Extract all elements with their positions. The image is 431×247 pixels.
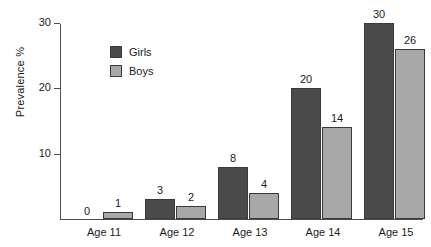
chart-legend: Girls Boys	[110, 44, 153, 82]
y-axis-tick-label-20: 20	[11, 81, 51, 93]
bar-girls-age-12[interactable]: 3	[145, 199, 175, 219]
bar-group-age-14: 20 14	[291, 19, 354, 219]
bar-value-girls-age-12: 3	[145, 184, 175, 196]
legend-label-boys: Boys	[129, 65, 153, 77]
bar-value-boys-age-12: 2	[176, 191, 206, 203]
legend-item-boys[interactable]: Boys	[110, 63, 153, 79]
bar-girls-age-15[interactable]: 30	[364, 23, 394, 219]
bar-group-age-13: 8 4	[218, 19, 281, 219]
bar-chart-figure: Prevalence % 30 20 10 0 1 Age 11	[0, 0, 431, 247]
bar-value-boys-age-15: 26	[395, 34, 425, 46]
y-axis-tick-label-30: 30	[11, 16, 51, 28]
legend-label-girls: Girls	[129, 46, 152, 58]
bar-boys-age-12[interactable]: 2	[176, 206, 206, 219]
bar-boys-age-13[interactable]: 4	[249, 193, 279, 219]
bar-value-girls-age-14: 20	[291, 73, 321, 85]
bar-girls-age-13[interactable]: 8	[218, 167, 248, 219]
bar-value-boys-age-14: 14	[322, 112, 352, 124]
bar-girls-age-14[interactable]: 20	[291, 88, 321, 219]
bar-value-girls-age-13: 8	[218, 152, 248, 164]
bar-boys-age-11[interactable]: 1	[103, 212, 133, 219]
bar-value-girls-age-15: 30	[364, 8, 394, 20]
bar-value-boys-age-13: 4	[249, 178, 279, 190]
legend-item-girls[interactable]: Girls	[110, 44, 153, 60]
x-axis-label-age-15: Age 15	[351, 226, 431, 238]
bar-group-age-12: 3 2	[145, 19, 208, 219]
y-axis-tick-label-10: 10	[11, 147, 51, 159]
legend-swatch-girls-icon	[110, 46, 122, 58]
bar-group-age-15: 30 26	[364, 19, 427, 219]
bar-value-girls-age-11: 0	[72, 205, 102, 217]
legend-swatch-boys-icon	[110, 65, 122, 77]
bar-boys-age-15[interactable]: 26	[395, 49, 425, 219]
bar-value-boys-age-11: 1	[103, 197, 133, 209]
bar-boys-age-14[interactable]: 14	[322, 127, 352, 219]
